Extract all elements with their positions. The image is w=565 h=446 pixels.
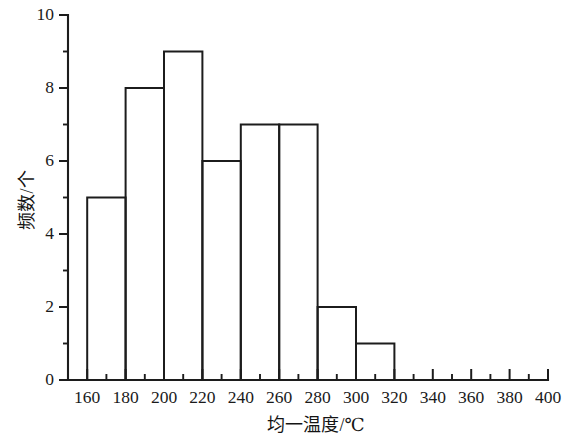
x-tick-label: 340 <box>420 387 447 407</box>
x-tick-label: 400 <box>535 387 562 407</box>
y-tick-label: 2 <box>45 296 54 316</box>
x-tick-label: 200 <box>151 387 178 407</box>
y-tick-label: 8 <box>45 77 54 97</box>
x-tick-label: 280 <box>304 387 331 407</box>
x-tick-label: 180 <box>112 387 139 407</box>
y-tick-label: 4 <box>45 223 54 243</box>
x-tick-label: 320 <box>381 387 408 407</box>
x-tick-label: 220 <box>189 387 216 407</box>
x-axis-title: 均一温度/℃ <box>267 415 364 435</box>
histogram-figure: 0246810 16018020022024026028030032034036… <box>0 0 565 446</box>
y-tick-label: 6 <box>45 150 54 170</box>
chart-canvas: 0246810 16018020022024026028030032034036… <box>0 0 565 446</box>
y-axis-title: 频数/个 <box>17 170 37 229</box>
x-tick-label: 300 <box>343 387 370 407</box>
y-tick-label: 0 <box>45 369 54 389</box>
x-tick-label: 160 <box>74 387 101 407</box>
x-tick-label: 380 <box>496 387 523 407</box>
y-tick-label: 10 <box>37 4 55 24</box>
x-tick-label: 360 <box>458 387 485 407</box>
x-tick-label: 260 <box>266 387 293 407</box>
x-tick-label: 240 <box>228 387 255 407</box>
